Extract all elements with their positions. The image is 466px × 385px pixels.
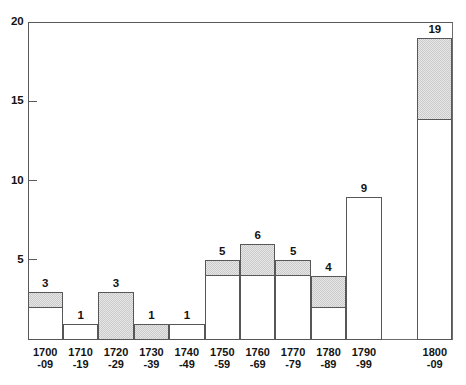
bar-shaded-portion	[28, 292, 63, 308]
bar-value-label: 5	[205, 245, 240, 257]
bar-shaded-portion	[275, 260, 310, 276]
bar-shaded-portion	[98, 292, 133, 340]
y-axis-label-10: 10	[2, 174, 24, 186]
bar-value-label: 4	[311, 261, 346, 273]
bar-shaded-portion	[311, 276, 346, 308]
x-axis-label-1790: 1790-99	[340, 346, 387, 371]
y-axis-tick-15	[28, 101, 37, 102]
bar	[169, 324, 204, 340]
x-axis-label-decade: 1800	[411, 346, 458, 359]
bar-value-label: 3	[98, 277, 133, 289]
bar	[63, 324, 98, 340]
y-axis-label-15: 15	[2, 94, 24, 106]
bar-value-label: 3	[28, 277, 63, 289]
bar-value-label: 1	[134, 309, 169, 321]
bar	[346, 197, 381, 340]
bar-shaded-portion	[240, 244, 275, 276]
bar-value-label: 6	[240, 229, 275, 241]
x-axis-label-decade-end: -99	[340, 358, 387, 371]
bar-value-label: 19	[417, 23, 452, 35]
y-axis-tick-10	[28, 180, 37, 181]
bar-value-label: 5	[275, 245, 310, 257]
bar-value-label: 9	[346, 182, 381, 194]
bar-value-label: 1	[63, 309, 98, 321]
bar-shaded-portion	[417, 38, 452, 121]
x-axis-label-decade-end: -09	[411, 358, 458, 371]
bar-shaded-portion	[134, 324, 169, 340]
bar-value-label: 1	[169, 309, 204, 321]
y-axis-label-20: 20	[2, 15, 24, 27]
bar-shaded-portion	[205, 260, 240, 276]
y-axis-tick-5	[28, 259, 37, 260]
x-axis-label-1800: 1800-09	[411, 346, 458, 371]
x-axis-label-decade: 1790	[340, 346, 387, 359]
histogram-chart: 2015105 313115654919 1700-091710-191720-…	[0, 0, 466, 385]
y-axis-label-5: 5	[2, 253, 24, 265]
